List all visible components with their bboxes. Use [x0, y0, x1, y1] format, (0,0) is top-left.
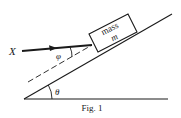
- figure-caption: Fig. 1: [81, 103, 102, 113]
- force-label: X: [8, 45, 17, 57]
- theta-arc: [48, 85, 52, 99]
- phi-label: φ: [56, 51, 61, 61]
- theta-label: θ: [55, 87, 60, 97]
- phi-arc: [70, 47, 72, 57]
- incline-line: [24, 14, 172, 99]
- inclined-plane-diagram: X φ θ mass m Fig. 1: [0, 0, 181, 118]
